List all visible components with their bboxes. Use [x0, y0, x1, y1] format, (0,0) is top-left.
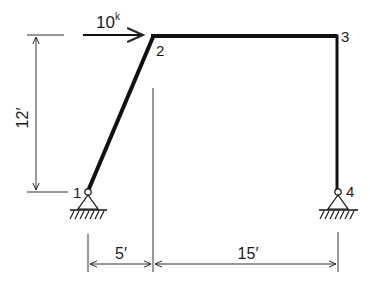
left-span-label: 5′	[115, 245, 127, 262]
height-dimension-label: 12′	[14, 108, 31, 129]
height-dimension	[27, 35, 68, 192]
node-label-4: 4	[346, 183, 354, 200]
node-label-2: 2	[156, 42, 164, 59]
load-label: 10k	[96, 11, 121, 32]
ground-hatch-icon	[70, 211, 104, 219]
node-label-3: 3	[341, 28, 349, 45]
node-label-1: 1	[73, 184, 81, 201]
right-span-label: 15′	[238, 245, 259, 262]
frame-diagram: 10k 1 2 3 4 12′ 5′ 15′	[0, 0, 370, 292]
member-1-2	[88, 37, 153, 191]
frame-members	[88, 36, 337, 191]
ground-hatch-icon	[320, 211, 354, 219]
